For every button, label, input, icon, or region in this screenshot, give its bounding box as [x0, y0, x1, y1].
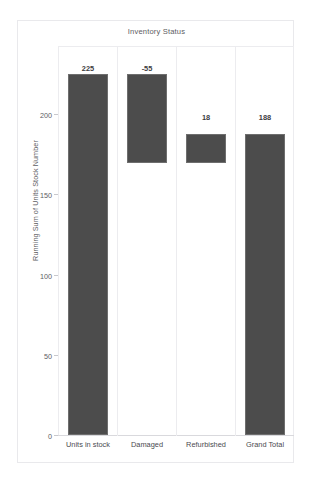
category-divider: [117, 46, 118, 436]
y-tick-label-50: 50: [44, 352, 52, 361]
y-tick-label-0: 0: [48, 432, 52, 441]
bar-label-refurbished: 18: [186, 113, 226, 122]
bar-label-damaged: -55: [127, 64, 167, 73]
chart-title: Inventory Status: [18, 27, 295, 36]
y-tick-label-100: 100: [40, 272, 52, 281]
category-divider: [176, 46, 177, 436]
x-tick-label-units-in-stock: Units in stock: [59, 440, 117, 449]
y-tick-label-150: 150: [40, 191, 52, 200]
chart-card: Inventory Status Running Sum of Units St…: [17, 20, 294, 463]
bar-label-grand-total: 188: [245, 113, 285, 122]
y-tick-mark: [54, 355, 58, 356]
y-tick-mark: [54, 275, 58, 276]
bar-units-in-stock[interactable]: [68, 74, 108, 435]
x-tick-label-damaged: Damaged: [118, 440, 176, 449]
bar-grand-total[interactable]: [245, 134, 285, 435]
y-tick-mark: [54, 435, 58, 436]
x-tick-label-refurbished: Refurbished: [177, 440, 235, 449]
y-tick-label-200: 200: [40, 111, 52, 120]
y-tick-mark: [54, 114, 58, 115]
bar-label-units-in-stock: 225: [68, 64, 108, 73]
category-divider: [235, 46, 236, 436]
y-tick-mark: [54, 194, 58, 195]
bar-damaged[interactable]: [127, 74, 167, 163]
y-axis-title: Running Sum of Units Stock Number: [31, 121, 40, 281]
bar-refurbished[interactable]: [186, 134, 226, 163]
x-tick-label-grand-total: Grand Total: [236, 440, 294, 449]
